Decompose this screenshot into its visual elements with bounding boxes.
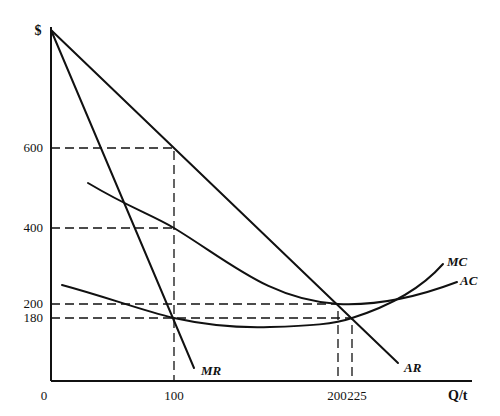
- cost-revenue-diagram: $ Q/t 0 600 400 200 180 100 200 225 MR A…: [0, 0, 500, 416]
- origin-label: 0: [41, 388, 48, 403]
- x-tick-100: 100: [164, 388, 184, 403]
- mr-label: MR: [200, 363, 222, 378]
- y-tick-400: 400: [24, 220, 44, 235]
- x-axis-title: Q/t: [448, 388, 468, 403]
- ar-curve: [51, 30, 398, 363]
- guide-600-100: [51, 148, 174, 381]
- ac-label: AC: [459, 273, 478, 288]
- x-tick-200: 200: [327, 388, 347, 403]
- y-tick-180: 180: [24, 310, 44, 325]
- guide-200-200: [51, 304, 338, 381]
- x-tick-225: 225: [347, 388, 367, 403]
- ar-label: AR: [403, 360, 422, 375]
- y-tick-600: 600: [24, 140, 44, 155]
- y-tick-200: 200: [24, 296, 44, 311]
- y-axis-title: $: [35, 23, 42, 38]
- mc-label: MC: [446, 254, 468, 269]
